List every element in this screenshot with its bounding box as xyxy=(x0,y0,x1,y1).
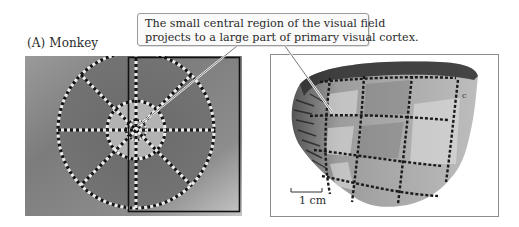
callout-pointers xyxy=(0,0,519,227)
